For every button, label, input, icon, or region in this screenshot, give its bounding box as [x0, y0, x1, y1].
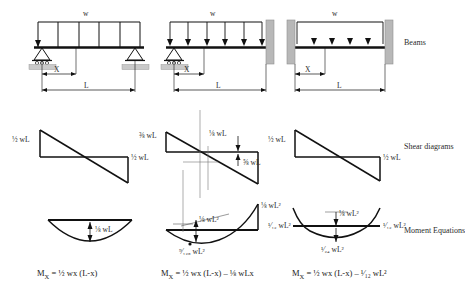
moment-end-label-col3: ¹⁄₁₂ wL²	[383, 222, 406, 230]
equation-col2: MX = ½ wx (L-x) – ⅛ wLx	[161, 268, 254, 280]
shear-diagram-simply-supported: ½ wL ½ wL	[35, 124, 145, 190]
equation-col1-rhs: = ½ wx (L-x)	[51, 268, 97, 278]
shear-mid-label-col2: ⅛ wL	[209, 130, 227, 138]
shear-left-label-col1: ½ wL	[12, 136, 30, 144]
shear-diagram-fixed-fixed: ½ wL ½ wL	[290, 124, 400, 190]
row-label-moment: Moment Equations	[404, 226, 465, 236]
dim-l-label-col2: L	[216, 82, 221, 90]
load-label-col2: w	[210, 10, 215, 18]
moment-bottom-label-col3: ¹⁄₂₄ wL²	[321, 246, 344, 254]
equation-col2-rhs: = ½ wx (L-x) – ⅛ wLx	[175, 268, 253, 278]
equation-col1: MX = ½ wx (L-x)	[37, 268, 97, 280]
moment-diagram-propped-cantilever: ⅛ wL² ⅛ wL² ⁹⁄₁₂₈ wL² ¹⁄₁₂ wL²	[163, 196, 283, 262]
dim-x-label-col2: X	[184, 66, 189, 74]
equation-col3-lhs: M	[292, 268, 300, 278]
load-label-col3: w	[332, 10, 337, 18]
shear-right-label-col2: ⅝ wL	[243, 159, 261, 167]
shear-right-label-col1: ½ wL	[131, 154, 149, 162]
moment-mid-label-col3: ⅛ wL²	[339, 210, 359, 218]
row-label-shear: Shear diagrams	[404, 142, 454, 152]
dim-l-label-col3: L	[337, 82, 342, 90]
shear-left-label-col2: ⅜ wL	[139, 132, 157, 140]
equation-col1-lhs: M	[37, 268, 45, 278]
shear-diagram-propped-cantilever: ⅜ wL ⅛ wL ⅝ wL	[163, 124, 278, 194]
moment-diagram-fixed-fixed: ⅛ wL² ¹⁄₂₄ wL² ¹⁄₁₂ wL²	[288, 204, 403, 260]
equation-col3-rhs: = ½ wx (L-x) – ¹⁄₁₂ wL²	[306, 268, 386, 278]
beam-diagram-propped-cantilever: w X L	[162, 12, 287, 82]
dim-x-label-col3: X	[305, 66, 310, 74]
row-label-beams: Beams	[404, 38, 426, 48]
beam-diagram-simply-supported: w X L	[30, 12, 160, 82]
dim-x-label-col1: X	[54, 66, 59, 74]
equation-col2-lhs: M	[161, 268, 169, 278]
beam-diagram-fixed-fixed: w X L	[285, 12, 410, 82]
equation-col1-sub: X	[45, 273, 50, 280]
equation-col3-sub: X	[300, 273, 305, 280]
shear-right-label-col3: ½ wL	[383, 154, 401, 162]
dim-l-label-col1: L	[84, 82, 89, 90]
equation-col3: MX = ½ wx (L-x) – ¹⁄₁₂ wL²	[292, 268, 387, 280]
moment-mid-label-col2: ⅛ wL²	[199, 216, 219, 224]
moment-min-label-col2: ⁹⁄₁₂₈ wL²	[179, 248, 205, 256]
moment-mid-label-col1: ⅛ wL	[95, 226, 113, 234]
equation-col2-sub: X	[169, 273, 174, 280]
moment-diagram-simply-supported: ⅛ wL	[40, 214, 150, 260]
moment-end-label-col2: ⅛ wL²	[261, 202, 281, 210]
load-label-col1: w	[83, 10, 88, 18]
shear-left-label-col3: ½ wL	[268, 136, 286, 144]
